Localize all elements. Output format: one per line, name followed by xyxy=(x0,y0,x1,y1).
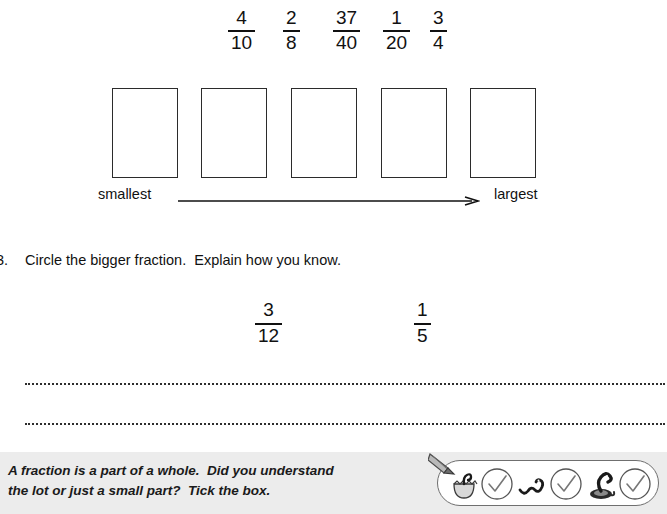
fraction-item: 2 8 xyxy=(283,8,300,53)
scale-arrow-icon xyxy=(178,196,480,206)
snake-small-icon xyxy=(517,466,549,502)
compare-fraction-item[interactable]: 1 5 xyxy=(414,300,431,346)
answer-box[interactable] xyxy=(201,88,267,178)
fraction-denominator: 5 xyxy=(414,326,431,346)
snake-coiled-icon xyxy=(586,466,618,502)
tick-circle-icon[interactable] xyxy=(549,467,583,501)
self-assessment-band: A fraction is a part of a whole. Did you… xyxy=(0,452,667,514)
fraction-denominator: 20 xyxy=(383,33,410,53)
answer-box[interactable] xyxy=(470,88,536,178)
fraction-denominator: 10 xyxy=(228,33,255,53)
compare-fraction-row: 3 12 1 5 xyxy=(0,300,667,356)
answer-writing-line[interactable] xyxy=(25,421,665,425)
answer-box-row xyxy=(0,88,667,182)
fraction-numerator: 1 xyxy=(414,300,431,320)
fraction-item: 37 40 xyxy=(333,8,360,53)
pencil-icon xyxy=(428,452,458,478)
fraction-denominator: 4 xyxy=(430,33,447,53)
fraction-item: 3 4 xyxy=(430,8,447,53)
tick-circle-icon[interactable] xyxy=(480,467,514,501)
answer-box[interactable] xyxy=(112,88,178,178)
tick-option-group[interactable] xyxy=(586,463,652,505)
fraction-denominator: 40 xyxy=(333,33,360,53)
compare-fraction-item[interactable]: 3 12 xyxy=(255,300,282,346)
answer-writing-line[interactable] xyxy=(25,381,665,385)
prompt-line-1: A fraction is a part of a whole. Did you… xyxy=(8,461,428,481)
fraction-numerator: 37 xyxy=(333,8,360,28)
fraction-denominator: 8 xyxy=(283,33,300,53)
scale-row: smallest largest xyxy=(0,186,667,210)
fraction-numerator: 1 xyxy=(383,8,410,28)
fraction-numerator: 3 xyxy=(430,8,447,28)
fraction-item: 1 20 xyxy=(383,8,410,53)
fraction-list: 4 10 2 8 37 40 1 20 3 4 xyxy=(0,8,667,66)
fraction-numerator: 2 xyxy=(283,8,300,28)
tick-option-group[interactable] xyxy=(517,463,583,505)
prompt-line-2: the lot or just a small part? Tick the b… xyxy=(8,481,428,501)
answer-box[interactable] xyxy=(291,88,357,178)
tick-panel xyxy=(437,460,659,506)
fraction-denominator: 12 xyxy=(255,326,282,346)
self-assessment-prompt: A fraction is a part of a whole. Did you… xyxy=(8,461,428,501)
fraction-numerator: 3 xyxy=(255,300,282,320)
fraction-item: 4 10 xyxy=(228,8,255,53)
tick-circle-icon[interactable] xyxy=(618,467,652,501)
answer-box[interactable] xyxy=(381,88,447,178)
fraction-numerator: 4 xyxy=(228,8,255,28)
smallest-label: smallest xyxy=(98,186,151,202)
largest-label: largest xyxy=(494,186,538,202)
question-number: 3. xyxy=(0,252,8,268)
question-row: 3. Circle the bigger fraction. Explain h… xyxy=(0,252,667,276)
question-text: Circle the bigger fraction. Explain how … xyxy=(25,252,341,268)
